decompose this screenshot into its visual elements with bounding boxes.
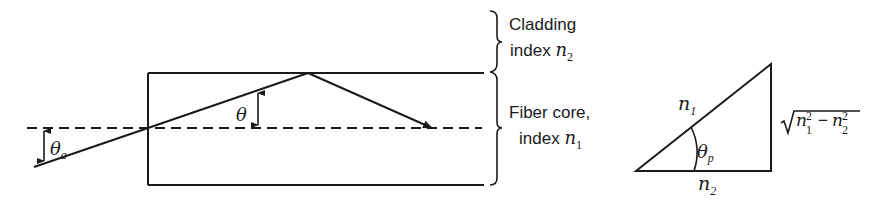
core-label: Fiber core, index n1 [509,103,590,152]
core-label-line2: index n1 [519,127,582,152]
cladding-label-line1: Cladding [509,15,576,34]
acceptance-angle-label: θa [50,138,67,162]
angle-label: θp [697,141,714,165]
cladding-label-line2: index n2 [510,39,573,64]
cladding-label: Cladding index n2 [509,15,576,64]
acceptance-angle-indicator: θa [44,131,67,162]
term1-sub: 1 [806,123,812,137]
right-triangle: n1 θp n2 n 2 1 − n 2 2 [636,64,860,198]
hypotenuse-label: n1 [678,92,696,118]
minus-operator: − [818,111,828,130]
internal-angle-label: θ [236,104,247,125]
refracted-ray [148,73,308,128]
core-label-line1: Fiber core, [509,103,590,122]
reflected-ray [308,73,432,128]
internal-angle-indicator: θ [236,93,258,125]
brace-icon [490,11,502,185]
base-label: n2 [698,172,716,198]
vertical-side-label: n 2 1 − n 2 2 [781,109,860,137]
fiber-optics-diagram: θa θ Cladding index n2 Fiber core, index… [0,0,878,200]
term2-sup: 2 [842,109,848,123]
term2-sub: 2 [842,123,848,137]
term1-sup: 2 [806,109,812,123]
light-ray [34,73,432,167]
